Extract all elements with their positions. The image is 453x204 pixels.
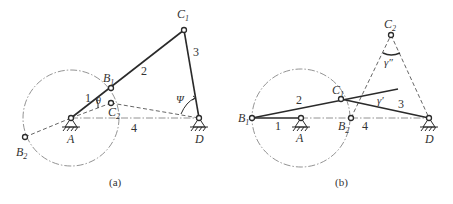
label-b2-b: B2 — [338, 119, 349, 135]
joint-c2-b — [389, 33, 394, 38]
label-b1-b: B1 — [238, 111, 249, 127]
joint-b1-b — [250, 116, 255, 121]
label-gamma2: γ″ — [384, 56, 393, 68]
figure-b: B1 B2 C1 C2 A D 1 2 3 4 γ′ γ″ (b) — [238, 17, 438, 189]
label-c1: C1 — [177, 7, 189, 23]
label-c1-b: C1 — [332, 83, 344, 99]
figure-a: B1 C1 C2 B2 A D 1 2 3 4 θ Ψ (a) — [16, 7, 208, 189]
four-bar-linkage-figure: B1 C1 C2 B2 A D 1 2 3 4 θ Ψ (a) — [0, 0, 453, 204]
label-psi: Ψ — [176, 93, 185, 105]
label-d: D — [194, 132, 204, 146]
label-gamma1: γ′ — [377, 94, 384, 106]
joint-d-b — [427, 116, 432, 121]
link-3-b — [341, 99, 429, 118]
dashed-c2-d — [391, 35, 429, 118]
joint-a — [69, 116, 74, 121]
label-b1: B1 — [103, 71, 114, 87]
dashed-a-c2 — [71, 103, 111, 118]
label-link-1: 1 — [85, 91, 91, 105]
caption-b: (b) — [335, 176, 348, 189]
joint-b2-b — [349, 116, 354, 121]
label-link-2-b: 2 — [296, 93, 302, 107]
label-c2-b: C2 — [384, 17, 396, 33]
label-link-3-b: 3 — [398, 97, 404, 111]
label-theta: θ — [96, 95, 101, 106]
joint-d — [197, 116, 202, 121]
label-a: A — [66, 132, 75, 146]
label-link-3: 3 — [193, 45, 199, 59]
joint-c1 — [182, 28, 187, 33]
joint-b2 — [23, 135, 28, 140]
label-b2: B2 — [16, 145, 27, 161]
label-d-b: D — [424, 132, 434, 146]
label-a-b: A — [295, 131, 304, 145]
label-link-2: 2 — [141, 64, 147, 78]
joint-a-b — [299, 116, 304, 121]
label-link-1-b: 1 — [275, 119, 281, 133]
label-link-4-b: 4 — [362, 119, 368, 133]
gamma2-arc — [383, 53, 400, 55]
label-link-4: 4 — [131, 121, 137, 135]
caption-a: (a) — [109, 176, 122, 189]
